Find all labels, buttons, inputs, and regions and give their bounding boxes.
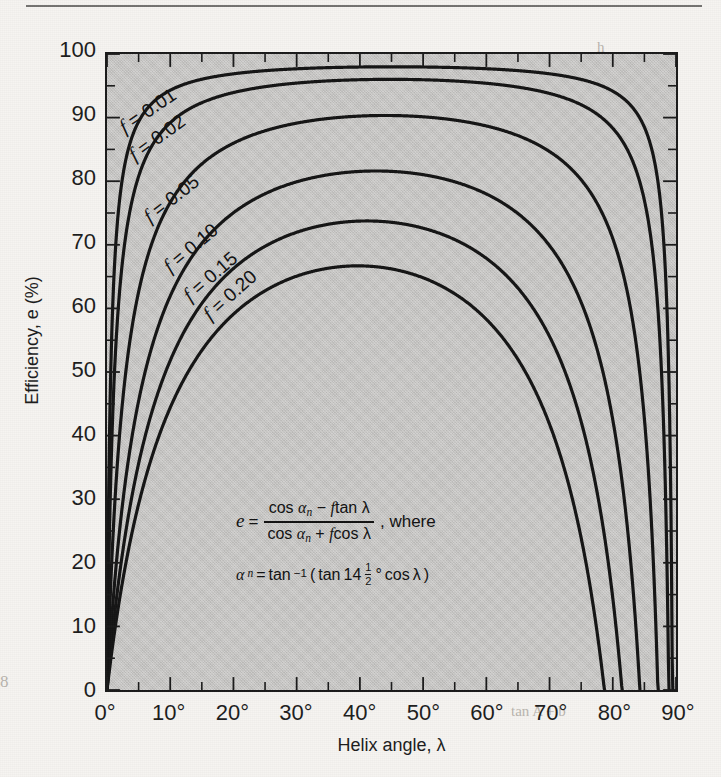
x-tick-label-40: 40° — [325, 700, 395, 726]
x-tick-label-20: 20° — [197, 700, 267, 726]
y-tick-label-20: 20 — [26, 549, 96, 575]
tok-lambda-2: λ — [363, 525, 371, 542]
y-tick-label-90: 90 — [26, 101, 96, 127]
equation-fraction: cos αn − ftan λ cos αn + fcos λ — [264, 498, 374, 546]
tok-minus: − — [317, 499, 326, 516]
equation-line-2: αn = tan−1 (tan 14 1 2 ° cos λ) — [236, 562, 436, 587]
x-tick-label-0: 0° — [70, 700, 140, 726]
y-tick-label-10: 10 — [26, 613, 96, 639]
tok-tan-2: tan — [269, 565, 291, 584]
tok-n-1: n — [306, 506, 312, 518]
axis-ticks — [107, 54, 676, 690]
equation-denominator: cos αn + fcos λ — [264, 524, 374, 546]
tok-cos-3: cos — [334, 525, 359, 542]
x-tick-label-70: 70° — [516, 700, 586, 726]
tok-14: 14 — [343, 565, 361, 584]
tok-tan-3: tan — [318, 565, 340, 584]
efficiency-chart: 0102030405060708090100 0°10°20°30°40°50°… — [0, 0, 721, 777]
tok-cos-4: cos — [385, 565, 410, 584]
tok-n-2: n — [305, 532, 311, 544]
equation-numerator: cos αn − ftan λ — [266, 498, 373, 520]
plot-area — [105, 52, 678, 692]
y-tick-label-100: 100 — [26, 37, 96, 63]
x-tick-label-90: 90° — [643, 700, 713, 726]
x-tick-label-30: 30° — [261, 700, 331, 726]
tok-half-num: 1 — [365, 562, 371, 574]
tok-half-fraction: 1 2 — [365, 562, 371, 587]
tok-alpha-2: α — [297, 525, 305, 542]
tok-plus: + — [315, 525, 324, 542]
fraction-bar — [264, 521, 374, 523]
tok-n-3: n — [247, 567, 253, 581]
tok-inverse-exponent: −1 — [294, 567, 307, 581]
y-axis-title: Efficiency, e (%) — [22, 191, 43, 491]
tok-cos-2: cos — [267, 525, 292, 542]
tok-lambda-1: λ — [362, 499, 370, 516]
x-tick-label-50: 50° — [388, 700, 458, 726]
equation-equals-1: = — [248, 512, 258, 532]
tok-alpha-3: α — [236, 565, 244, 584]
x-tick-label-60: 60° — [452, 700, 522, 726]
tok-open-paren: ( — [310, 565, 315, 584]
x-tick-label-10: 10° — [134, 700, 204, 726]
tok-close-paren: ) — [424, 565, 429, 584]
equation-where: , where — [380, 512, 436, 532]
tok-lambda-3: λ — [413, 565, 421, 584]
figure-page: 8 h gh a Fig tan A + b 01020304050607080… — [0, 0, 721, 777]
tok-tan-1: tan — [335, 499, 357, 516]
equation-annotation: e = cos αn − ftan λ cos αn + fcos λ , wh… — [236, 498, 436, 587]
equation-equals-2: = — [256, 565, 265, 584]
tok-cos-1: cos — [269, 499, 294, 516]
tok-half-den: 2 — [365, 576, 371, 588]
x-tick-label-80: 80° — [579, 700, 649, 726]
equation-lhs: e — [236, 510, 244, 533]
tok-degree: ° — [375, 565, 381, 584]
x-axis-title: Helix angle, λ — [105, 735, 678, 756]
y-tick-label-80: 80 — [26, 165, 96, 191]
